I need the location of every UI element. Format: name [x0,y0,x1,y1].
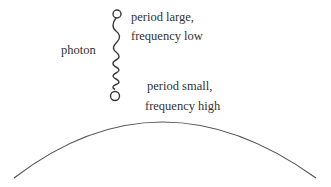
photon-top-circle-icon [113,10,121,18]
bottom-label-line2: frequency high [145,99,220,113]
photon-bottom-circle-icon [111,92,120,101]
surface-arc [14,122,316,178]
photon-label: photon [61,43,96,57]
top-label-line2: frequency low [131,29,203,43]
bottom-label-line1: period small, [147,79,212,93]
top-label-line1: period large, [131,10,194,24]
photon-wave-icon [113,18,120,90]
